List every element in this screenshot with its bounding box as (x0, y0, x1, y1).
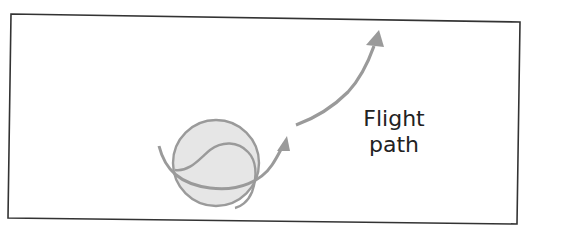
ball (173, 120, 259, 206)
flight-path-diagram (0, 0, 575, 229)
diagram-frame (8, 14, 520, 224)
flight-path-label-line1: Flight (354, 106, 434, 132)
flight-path-label-line2: path (354, 132, 434, 158)
flight-path-label: Flight path (354, 106, 434, 158)
